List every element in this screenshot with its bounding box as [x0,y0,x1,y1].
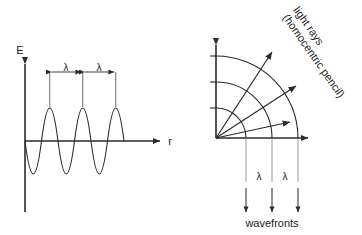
left-panel-wave-plot: E r λ λ [16,44,172,212]
wavefronts-caption: wavefronts [244,217,299,229]
right-wavelength-label-1: λ [257,171,262,182]
light-ray-3 [216,52,272,138]
light-ray-1 [216,122,290,138]
e-axis-label: E [16,44,23,56]
light-ray-2 [216,86,296,138]
r-axis-label: r [168,135,172,147]
wavefront-arc-2 [216,82,272,138]
wavefront-arc-1 [216,108,246,138]
light-rays-callout: light rays (homocentric pencil) [281,4,358,99]
physics-figure: E r λ λ [0,0,362,235]
figure-root: E r λ λ [0,0,362,235]
right-panel-wavefront-diagram: λ λ wavefronts light rays (homocentric p… [210,4,358,229]
wavefront-arc-3 [216,56,298,138]
left-wavelength-label-2: λ [97,62,102,73]
right-wavelength-label-2: λ [283,171,288,182]
left-wavelength-label-1: λ [64,62,69,73]
